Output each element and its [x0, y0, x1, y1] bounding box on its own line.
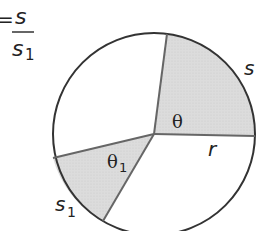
angle-theta-label: θ [172, 111, 183, 132]
formula-denominator-subscript: 1 [25, 46, 35, 64]
radius-r-label: r [208, 137, 218, 161]
sector-diagram: = s s 1 θ θ 1 s s 1 r [0, 0, 258, 231]
angle-theta1-subscript: 1 [119, 160, 127, 175]
arc-s1-label: s [55, 192, 65, 216]
angle-theta1-label: θ [107, 151, 118, 172]
arc-s1-subscript: 1 [67, 204, 76, 220]
equals-sign: = [0, 7, 14, 31]
arc-s-label: s [244, 56, 254, 80]
ratio-formula: = s s 1 [0, 4, 35, 64]
formula-denominator: s [12, 36, 23, 61]
sector-theta [154, 34, 255, 136]
formula-numerator: s [15, 4, 26, 29]
